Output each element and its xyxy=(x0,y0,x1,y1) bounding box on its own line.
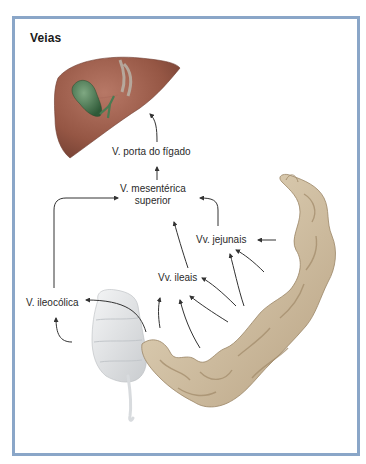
small-intestine-icon xyxy=(142,174,336,407)
figure-title: Veias xyxy=(30,31,61,45)
arrow-ileal-to-smv xyxy=(174,222,188,268)
anatomy-illustration xyxy=(0,0,366,464)
liver-icon xyxy=(54,57,180,158)
label-smv-line1: V. mesentérica xyxy=(120,183,186,195)
arrow-ileocolic-to-smv xyxy=(54,198,118,288)
arrow-portal-to-liver xyxy=(150,114,157,142)
label-ileocolic-vein: V. ileocólica xyxy=(26,297,78,309)
label-superior-mesenteric-vein: V. mesentérica superior xyxy=(120,183,186,207)
colon-icon xyxy=(92,289,147,420)
arrow-jejunal-to-smv xyxy=(200,198,218,226)
label-smv-line2: superior xyxy=(120,195,186,207)
label-portal-vein: V. porta do fígado xyxy=(112,146,191,158)
label-ileal-veins: Vv. ileais xyxy=(158,272,197,284)
label-jejunal-veins: Vv. jejunais xyxy=(196,234,246,246)
